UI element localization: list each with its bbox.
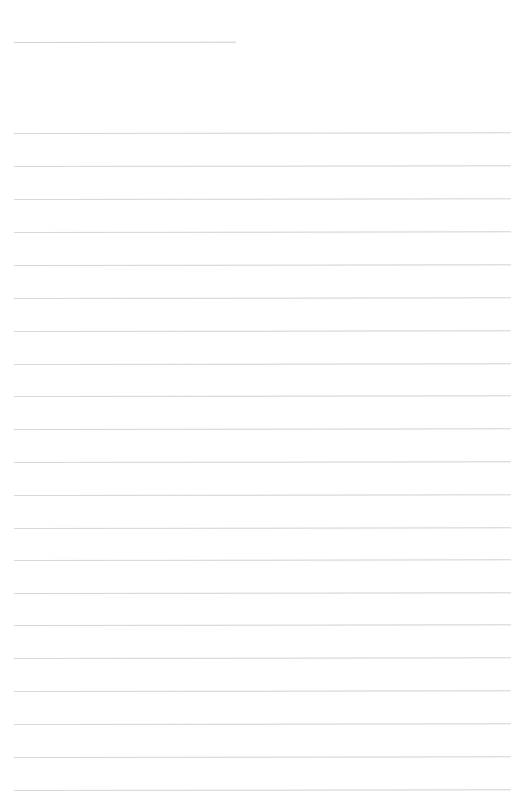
writing-rule[interactable] [14,363,511,365]
writing-rule[interactable] [14,559,511,561]
writing-rule[interactable] [14,330,511,332]
writing-rule[interactable] [14,297,511,299]
writing-rule[interactable] [14,657,511,659]
writing-rule[interactable] [14,395,511,397]
writing-rule[interactable] [14,494,511,496]
writing-rule[interactable] [14,231,511,233]
writing-rule[interactable] [14,789,511,791]
writing-rule[interactable] [14,165,511,167]
writing-rule[interactable] [14,132,511,134]
lined-paper-page [0,0,525,811]
writing-rule[interactable] [14,264,511,266]
writing-rule[interactable] [14,690,511,692]
writing-area[interactable] [0,0,525,811]
writing-rule[interactable] [14,428,511,430]
writing-rule[interactable] [14,624,511,626]
writing-rule[interactable] [14,461,511,463]
writing-rule[interactable] [14,198,511,200]
writing-rule[interactable] [14,723,511,725]
writing-rule[interactable] [14,592,511,594]
writing-rule[interactable] [14,527,511,529]
writing-rule[interactable] [14,756,511,758]
title-rule[interactable] [14,42,236,43]
